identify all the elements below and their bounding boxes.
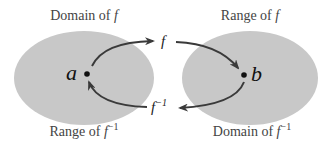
right-set: Range of f Domain of f−1 b	[182, 8, 318, 139]
f-label: f	[161, 33, 167, 49]
range-of-f-label: Range of f	[221, 8, 281, 23]
left-set: Domain of f Range of f−1 a	[14, 8, 154, 139]
point-a-label: a	[66, 60, 77, 85]
domain-of-f-inverse-label: Domain of f−1	[213, 121, 291, 139]
point-b-label: b	[251, 61, 262, 86]
f-inverse-label: f−1	[151, 97, 167, 115]
point-b	[241, 72, 247, 78]
function-inverse-diagram: Domain of f Range of f−1 a Range of f Do…	[0, 0, 331, 141]
point-a	[84, 71, 90, 77]
range-of-f-inverse-label: Range of f−1	[50, 121, 119, 139]
domain-of-f-label: Domain of f	[50, 8, 120, 23]
left-set-ellipse	[14, 31, 154, 125]
